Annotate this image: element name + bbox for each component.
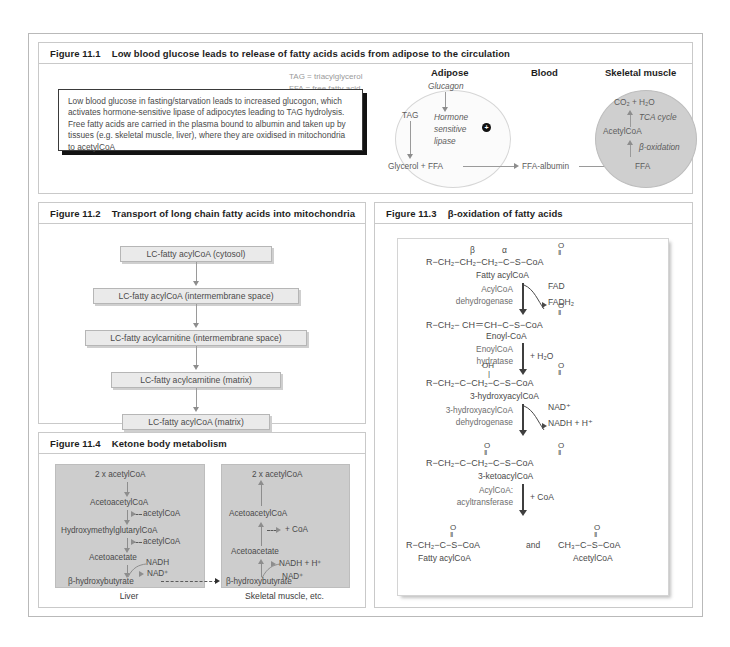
structure-formula-2: R−CH₂− CH＝CH−C−S−CoA — [426, 318, 543, 331]
cofactor-in-3: NAD⁺ — [548, 402, 571, 412]
liver-caption: Liver — [55, 591, 203, 601]
hsl-line3: lipase — [434, 136, 456, 146]
final-left-name: Fatty acylCoA — [418, 553, 471, 563]
muscle-side-arrow — [276, 527, 281, 533]
liver-side-input-1: acetylCoA — [143, 509, 180, 518]
liver-node-5: β-hydroxybutyrate — [68, 577, 134, 586]
structure-name-3: 3-hydroxyacylCoA — [470, 391, 539, 401]
enzyme-4-line1: AcylCoA: — [448, 485, 513, 495]
muscle-line-1 — [261, 484, 262, 506]
final-conjunction: and — [526, 540, 540, 550]
liver-node-4: Acetoacetate — [89, 553, 137, 562]
reaction-arrow-head-4 — [519, 510, 527, 516]
figure-11-1-number: Figure 11.1 — [50, 48, 101, 59]
figure-11-3-body: β α O ‖ R−CH₂−CH₂−CH₂−C−S−CoA Fatty acyl… — [375, 224, 692, 607]
enzyme-2-line2: hydratase — [438, 356, 513, 366]
column-header-adipose: Adipose — [431, 67, 468, 78]
beta-oxidation-label: β-oxidation — [639, 142, 680, 152]
figure-11-2-header: Figure 11.2 Transport of long chain fatt… — [39, 203, 365, 224]
cofactor-curve-1 — [522, 283, 548, 313]
figure-11-2-title: Transport of long chain fatty acids into… — [112, 208, 355, 219]
summary-text: Low blood glucose in fasting/starvation … — [68, 96, 353, 153]
enzyme-3-line2: dehydrogenase — [428, 417, 513, 427]
figure-11-2-number: Figure 11.2 — [50, 208, 101, 219]
liver-cofactor-out: NAD⁺ — [147, 568, 168, 578]
liver-node-3: HydroxymethylglutarylCoA — [61, 526, 157, 535]
structure-formula-1: R−CH₂−CH₂−CH₂−C−S−CoA — [426, 257, 544, 267]
liver-cofactor-in: NADH — [146, 558, 169, 567]
glucagon-arrow-line — [445, 92, 446, 108]
figure-11-3-panel: Figure 11.3 β-oxidation of fatty acids β… — [374, 202, 693, 608]
flow-line-3 — [196, 346, 197, 366]
tca-cycle-label: TCA cycle — [639, 112, 677, 122]
figure-11-2-panel: Figure 11.2 Transport of long chain fatt… — [38, 202, 366, 424]
double-bond-4b: ‖ — [558, 448, 561, 457]
tag-hydrolysis-arrow — [407, 154, 413, 159]
flow-arrow-1 — [193, 281, 199, 286]
reaction-arrow-4 — [522, 484, 524, 512]
cofactor-out-3: NADH + H⁺ — [548, 418, 593, 428]
figure-11-1-title: Low blood glucose leads to release of fa… — [112, 48, 510, 59]
flow-step-1: LC-fatty acylCoA (cytosol) — [120, 246, 272, 262]
muscle-node-1: 2 x acetylCoA — [252, 470, 303, 479]
cofactor-in-4: + CoA — [530, 492, 554, 502]
final-right-name: AcetylCoA — [573, 553, 613, 563]
tca-arrow-head — [627, 110, 633, 115]
flow-arrow-3 — [193, 365, 199, 370]
structure-name-2: Enoyl-CoA — [486, 331, 527, 341]
figure-11-4-title: Ketone body metabolism — [112, 438, 227, 449]
muscle-arrow-1 — [258, 480, 264, 485]
muscle-line-2 — [261, 526, 262, 546]
muscle-cofactor-out-arrow — [271, 561, 276, 567]
double-bond-4a: ‖ — [484, 448, 487, 457]
final-right-formula: CH₃−C−S−CoA — [558, 540, 620, 550]
figure-11-2-body: LC-fatty acylCoA (cytosol) LC-fatty acyl… — [39, 224, 365, 423]
acetylcoa-label: AcetylCoA — [603, 126, 642, 136]
liver-side-input-2: acetylCoA — [143, 537, 180, 546]
tag-hydrolysis-line — [410, 121, 411, 155]
flow-arrow-2 — [193, 323, 199, 328]
figure-11-4-number: Figure 11.4 — [50, 438, 101, 449]
cofactor-curve-3 — [522, 404, 548, 434]
structure-name-1: Fatty acylCoA — [476, 270, 529, 280]
beta-carbon-label: β — [470, 245, 475, 255]
structure-formula-4: R−CH₂−C−CH₂−C−S−CoA — [426, 458, 534, 468]
flow-step-2: LC-fatty acylCoA (intermembrane space) — [93, 288, 299, 304]
flow-line-1 — [196, 262, 197, 282]
flow-line-4 — [196, 388, 197, 408]
summary-textbox: Low blood glucose in fasting/starvation … — [58, 89, 363, 151]
structure-formula-3: R−CH₂−C−CH₂−C−S−CoA — [426, 378, 534, 388]
liver-cofactor-out-arrow — [139, 571, 144, 577]
liver-node-2: AcetoacetylCoA — [90, 498, 148, 507]
beta-oxidation-arrow-head — [627, 140, 633, 145]
glycerol-ffa-label: Glycerol + FFA — [388, 161, 443, 171]
hsl-line1: Hormone — [434, 112, 468, 122]
figure-11-3-number: Figure 11.3 — [386, 208, 437, 219]
enzyme-1-line1: AcylCoA — [448, 284, 513, 294]
figure-11-1-panel: Figure 11.1 Low blood glucose leads to r… — [38, 42, 693, 194]
cofactor-out-arrow-3 — [542, 423, 547, 429]
muscle-ffa-label: FFA — [635, 161, 650, 171]
muscle-arrow-2 — [258, 522, 264, 527]
muscle-node-3: Acetoacetate — [231, 547, 279, 556]
flow-arrow-4 — [193, 407, 199, 412]
legend-tag: TAG = triacylglycerol — [289, 72, 362, 81]
cofactor-in-1: FAD — [548, 281, 565, 291]
adipose-to-blood-arrow — [514, 163, 519, 169]
liver-node-1: 2 x acetylCoA — [95, 470, 146, 479]
cofactor-in-2: + H₂O — [530, 351, 553, 361]
ketone-transport-arrow — [215, 578, 220, 584]
liver-side-arrow-1 — [131, 511, 136, 517]
column-header-skeletal-muscle: Skeletal muscle — [605, 67, 676, 78]
double-bond-2: ‖ — [558, 308, 561, 317]
figure-11-3-header: Figure 11.3 β-oxidation of fatty acids — [375, 203, 692, 224]
enzyme-4-line2: acyltransferase — [423, 497, 513, 507]
enzyme-1-line2: dehydrogenase — [428, 296, 513, 306]
glucagon-label: Glucagon — [428, 81, 464, 91]
flow-step-5: LC-fatty acylCoA (matrix) — [122, 414, 270, 430]
activation-plus-badge: + — [482, 123, 491, 132]
final-left-bond: ‖ — [450, 530, 453, 539]
figure-11-4-header: Figure 11.4 Ketone body metabolism — [39, 433, 365, 454]
muscle-node-4: β-hydroxybutyrate — [226, 577, 292, 586]
figure-11-1-header: Figure 11.1 Low blood glucose leads to r… — [39, 43, 692, 64]
